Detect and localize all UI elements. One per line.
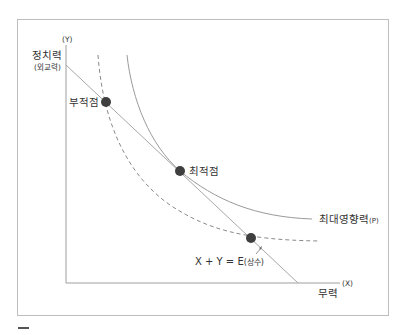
y-axis-symbol: (Y) — [62, 35, 73, 44]
optimal-point-label: 최적점 — [189, 165, 219, 177]
budget-equation-label: X + Y = E(상수) — [195, 256, 264, 267]
caption-dash-mark — [18, 327, 29, 329]
x-axis-symbol: (X) — [342, 279, 353, 288]
third-point — [246, 233, 256, 243]
suboptimal-point — [101, 97, 111, 107]
max-influence-label: 최대영향력(P) — [319, 213, 379, 225]
y-axis-label: 정치력 — [32, 49, 62, 61]
optimal-point — [175, 166, 185, 176]
x-axis-label: 무력 — [318, 287, 338, 299]
max-influence-curve — [127, 55, 312, 219]
y-axis-sublabel: (외교력) — [34, 62, 61, 72]
diagram-figure: (Y) 정치력 (외교력) 부적점 최적점 최대영향력(P) X + Y = E… — [0, 0, 404, 335]
suboptimal-point-label: 부적점 — [69, 96, 99, 108]
